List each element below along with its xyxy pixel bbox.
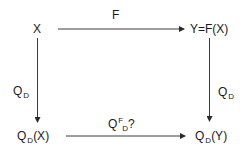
node-qd-x: QD(X): [17, 129, 49, 145]
edge-label-bottom-qfd: QFD?: [108, 117, 135, 133]
edge-label-left-qd: QD: [13, 84, 29, 100]
node-x-text: X: [33, 22, 41, 36]
bottom-question: ?: [128, 117, 135, 131]
qdx-tail: (X): [33, 129, 49, 143]
right-sub-d: D: [228, 92, 234, 101]
bottom-sub-d: D: [122, 124, 128, 133]
node-x: X: [33, 22, 41, 36]
edge-label-right-qd: QD: [218, 85, 234, 101]
edge-f-text: F: [112, 8, 119, 22]
qdx-q: Q: [17, 129, 26, 143]
node-y-eq-fx: Y=F(X): [190, 22, 228, 36]
node-qd-y: QD(Y): [195, 129, 227, 145]
qdx-sub: D: [27, 136, 33, 145]
left-q: Q: [13, 84, 22, 98]
qdy-sub: D: [205, 136, 211, 145]
bottom-q: Q: [108, 117, 117, 131]
qdy-tail: (Y): [211, 129, 227, 143]
qdy-q: Q: [195, 129, 204, 143]
node-y-text: Y=F(X): [190, 22, 228, 36]
edge-label-f: F: [112, 8, 119, 22]
left-sub-d: D: [23, 91, 29, 100]
right-q: Q: [218, 85, 227, 99]
